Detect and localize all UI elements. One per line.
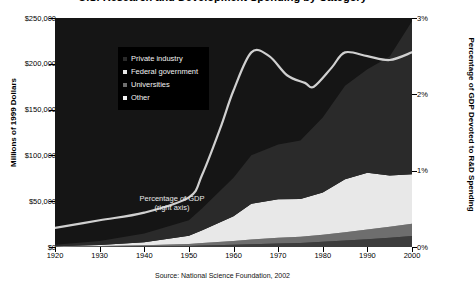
x-tick-label: 1960 <box>214 252 254 260</box>
x-tick-label: 1970 <box>258 252 298 260</box>
y-tick-label: $200,000 <box>0 60 56 68</box>
legend-swatch-icon <box>123 57 127 61</box>
secondary-y-tick-mark <box>412 171 417 172</box>
secondary-y-tick-mark <box>412 18 417 19</box>
y-tick-label: $150,000 <box>0 106 56 114</box>
x-tick-label: 1930 <box>80 252 120 260</box>
x-tick-mark <box>278 247 279 252</box>
gdp-line-annotation: Percentage of GDP (right axis) <box>117 194 227 213</box>
chart-caption: Source: National Science Foundation, 200… <box>0 272 445 281</box>
legend-item-other: Other <box>123 91 198 104</box>
x-tick-label: 2000 <box>392 252 432 260</box>
stacked-area-svg <box>55 18 412 247</box>
secondary-y-axis-title: Percentage of GDP Devoted to R&D Spendin… <box>467 20 476 230</box>
legend-item-private-industry: Private industry <box>123 52 198 65</box>
legend-swatch-icon <box>123 70 127 74</box>
x-tick-mark <box>189 247 190 252</box>
x-tick-mark <box>412 247 413 252</box>
legend-label: Private industry <box>131 55 183 63</box>
x-tick-mark <box>234 247 235 252</box>
plot-area: Percentage of GDP (right axis) Private i… <box>55 18 412 247</box>
x-tick-mark <box>367 247 368 252</box>
x-tick-label: 1990 <box>347 252 387 260</box>
y-tick-label: $100,000 <box>0 152 56 160</box>
legend-label: Federal government <box>131 68 198 76</box>
x-tick-mark <box>323 247 324 252</box>
x-tick-label: 1950 <box>169 252 209 260</box>
x-tick-mark <box>55 247 56 252</box>
legend-label: Universities <box>131 81 170 89</box>
legend-item-universities: Universities <box>123 78 198 91</box>
secondary-y-tick-label: 1% <box>417 167 441 175</box>
secondary-y-tick-mark <box>412 94 417 95</box>
y-tick-label: $250,000 <box>0 15 56 23</box>
chart-legend: Private industry Federal government Univ… <box>118 47 209 110</box>
y-axis-title: Millions of 1999 Dollars <box>9 53 18 193</box>
y-tick-label: $0 <box>0 244 56 252</box>
area-series-group <box>55 21 412 247</box>
legend-label: Other <box>131 94 150 102</box>
secondary-y-tick-label: 3% <box>417 15 441 23</box>
x-tick-label: 1940 <box>124 252 164 260</box>
legend-swatch-icon <box>123 83 127 87</box>
gdp-annotation-line1: Percentage of GDP <box>117 194 227 203</box>
secondary-y-tick-label: 2% <box>417 91 441 99</box>
x-tick-mark <box>144 247 145 252</box>
x-tick-label: 1980 <box>303 252 343 260</box>
gdp-annotation-line2: (right axis) <box>117 203 227 212</box>
chart-title: U.S. Research and Development Spending b… <box>0 0 445 3</box>
x-tick-mark <box>100 247 101 252</box>
x-tick-label: 1920 <box>35 252 75 260</box>
secondary-y-tick-label: 0% <box>417 244 441 252</box>
legend-item-federal-government: Federal government <box>123 65 198 78</box>
y-tick-label: $50,000 <box>0 198 56 206</box>
legend-swatch-icon <box>123 96 127 100</box>
